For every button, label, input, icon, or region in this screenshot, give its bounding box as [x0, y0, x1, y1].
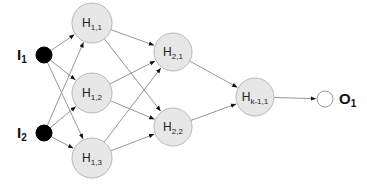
output-node-o1	[317, 91, 333, 107]
edge-h13-to-h21	[104, 68, 161, 142]
input-label-i2: I2	[17, 124, 27, 143]
hidden-node-h13: H1,3	[72, 138, 112, 178]
nodes-layer: H1,1H1,2H1,3H2,1H2,2Hk-1,1	[36, 3, 333, 178]
edge-h13-to-h22	[111, 134, 155, 151]
output-node-circle	[317, 91, 333, 107]
hidden-node-h12: H1,2	[72, 73, 112, 113]
edge-i1-to-h11	[51, 35, 75, 51]
hidden-node-h21: H2,1	[154, 33, 192, 71]
edge-h11-to-h22	[104, 39, 160, 111]
edge-h22-to-hk11	[191, 104, 236, 121]
input-node-i1	[36, 47, 52, 63]
edge-h11-to-h21	[111, 30, 154, 46]
edge-hk11-to-o1	[274, 98, 316, 99]
hidden-node-h22: H2,2	[154, 108, 192, 146]
neural-network-diagram: H1,1H1,2H1,3H2,1H2,2Hk-1,1 I1 I2 O1	[0, 0, 367, 185]
input-node-i2	[36, 125, 52, 141]
input-node-circle	[36, 47, 52, 63]
edge-h12-to-h21	[110, 61, 155, 84]
output-label-o1: O1	[339, 90, 357, 109]
hidden-node-h11: H1,1	[72, 3, 112, 43]
edge-i2-to-h13	[51, 137, 73, 149]
hidden-node-hk11: Hk-1,1	[236, 78, 274, 116]
input-node-circle	[36, 125, 52, 141]
edge-h12-to-h22	[110, 101, 154, 120]
input-label-i1: I1	[17, 46, 27, 65]
edge-h21-to-hk11	[190, 61, 238, 87]
